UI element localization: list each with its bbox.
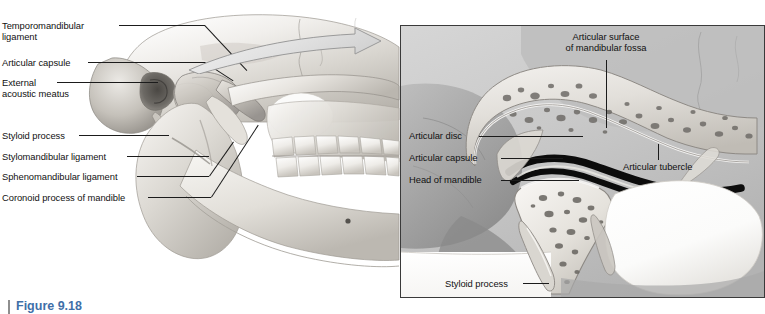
label-articular-disc: Articular disc (409, 130, 462, 141)
label-articular-capsule-right: Articular capsule (409, 152, 477, 163)
leader-articular-tubercle (658, 144, 659, 160)
label-articular-surface-of-mandibular-fossa: Articular surface of mandibular fossa (541, 31, 671, 53)
label-articular-capsule: Articular capsule (2, 57, 70, 68)
label-temporomandibular-ligament: Temporomandibular ligament (2, 20, 84, 42)
label-sphenomandibular-ligament: Sphenomandibular ligament (2, 171, 118, 182)
label-styloid-process: Styloid process (2, 130, 65, 141)
leader-external-acoustic-meatus (57, 82, 158, 83)
label-articular-tubercle: Articular tubercle (623, 161, 692, 172)
leader-articular-surface-of-mandibular-fossa (606, 60, 607, 128)
leader-head-of-mandible (501, 180, 579, 181)
right-panel-magnified-tmj-section: Articular surface of mandibular fossa Ar… (400, 25, 765, 298)
figure-caption: Figure 9.18 (8, 300, 308, 314)
caption-text: Figure 9.18 (16, 300, 82, 313)
leader-temporomandibular-ligament (119, 25, 205, 26)
leader-styloid-process (79, 135, 169, 136)
leader-articular-disc (479, 136, 583, 137)
leader-styloid-process-right (523, 283, 549, 284)
leader-sphenomandibular-ligament (137, 176, 209, 177)
label-external-acoustic-meatus: External acoustic meatus (2, 77, 69, 99)
leader-coronoid-process (148, 197, 211, 198)
label-head-of-mandible: Head of mandible (409, 174, 482, 185)
leader-articular-capsule-right (501, 158, 563, 159)
label-coronoid-process-of-mandible: Coronoid process of mandible (2, 192, 125, 203)
skull-lateral-illustration (0, 0, 400, 300)
figure-container: Temporomandibular ligament Articular cap… (0, 0, 765, 314)
label-styloid-process-right: Styloid process (445, 278, 508, 289)
leader-articular-capsule (88, 62, 205, 63)
label-stylomandibular-ligament: Stylomandibular ligament (2, 151, 106, 162)
caption-rule (8, 300, 10, 314)
left-panel-lateral-skull-view: Temporomandibular ligament Articular cap… (0, 0, 400, 300)
leader-stylomandibular-ligament (127, 156, 209, 157)
